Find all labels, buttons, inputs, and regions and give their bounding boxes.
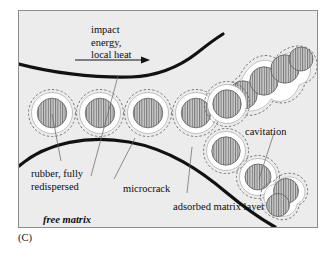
leader-adsorbed [187,147,192,193]
label-cavitation: cavitation [245,126,286,138]
label-free-matrix: free matrix [43,214,91,226]
label-impact-line3: local heat [91,49,132,62]
particle [125,90,172,137]
label-impact-line1: impact [91,24,132,37]
particle [77,90,124,137]
diagram-canvas [19,11,318,228]
leader-microcrack-lower [114,138,135,179]
particle [204,129,249,174]
figure-caption: (C) [18,232,32,243]
figure-root: impact energy, local heat cavitation rub… [0,0,336,253]
label-microcrack: microcrack [123,183,170,195]
label-rubber-line1: rubber, fully [31,168,83,181]
particle-row-main [29,90,220,137]
label-rubber-redispersed: rubber, fully redispersed [31,168,83,193]
particle [29,90,76,137]
label-impact-energy: impact energy, local heat [91,24,132,62]
label-rubber-line2: redispersed [31,181,83,194]
label-adsorbed-matrix-layer: adsorbed matrix layer [173,201,265,213]
figure-frame: impact energy, local heat cavitation rub… [18,10,318,228]
label-impact-line2: energy, [91,37,132,50]
